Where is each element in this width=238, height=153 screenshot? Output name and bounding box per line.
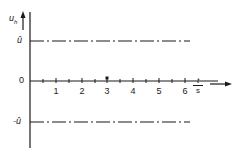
x-axis-label-denominator: s	[193, 86, 203, 95]
tick-label-4: 4	[130, 87, 135, 96]
y-axis-arrow-icon	[21, 11, 26, 30]
tick-label-3: 3	[104, 87, 109, 96]
x-axis-label-numerator: t	[193, 77, 203, 86]
tick-label-5: 5	[156, 87, 161, 96]
tick-label-6: 6	[182, 87, 187, 96]
zero-level-label: 0	[19, 76, 24, 85]
x-axis-arrow-icon	[210, 82, 232, 87]
x-axis-label: t s	[193, 77, 203, 95]
y-axis-label-subscript: h	[14, 19, 17, 25]
lower-level-label: -û	[13, 117, 21, 126]
upper-level-label: û	[17, 36, 22, 45]
tick-label-2: 2	[79, 87, 84, 96]
tick-label-1: 1	[53, 87, 58, 96]
y-axis-label: uh	[9, 14, 17, 27]
marker-dot	[106, 77, 109, 80]
